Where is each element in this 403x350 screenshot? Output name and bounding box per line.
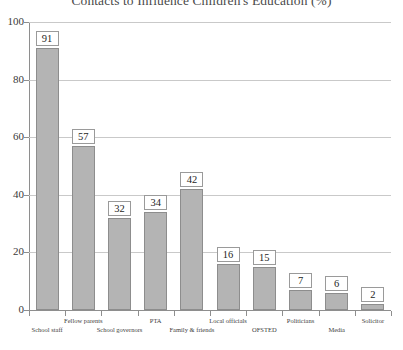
bar-ofsted[interactable] (253, 267, 276, 310)
x-tick-7 (282, 311, 283, 316)
x-tick-10 (391, 311, 392, 316)
y-axis-label-20: 20 (0, 246, 24, 257)
x-tick-8 (319, 311, 320, 316)
bar-school-staff[interactable] (36, 48, 59, 310)
x-axis-label-school-staff: School staff (32, 326, 63, 334)
y-axis-label-100: 100 (0, 16, 24, 27)
x-axis-label-fellow-parents: Fellow parents (64, 317, 102, 325)
value-label-local-officials: 16 (217, 247, 240, 262)
value-label-media: 6 (325, 276, 348, 291)
value-label-school-staff: 91 (36, 31, 59, 46)
x-tick-2 (101, 311, 102, 316)
bar-school-governors[interactable] (108, 218, 131, 310)
value-label-politicians: 7 (289, 273, 312, 288)
y-axis-label-60: 60 (0, 131, 24, 142)
x-tick-5 (210, 311, 211, 316)
x-axis-label-local-officials: Local officials (209, 317, 247, 325)
x-tick-1 (65, 311, 66, 316)
x-axis-label-pta: PTA (150, 317, 162, 325)
x-tick-0 (29, 311, 30, 316)
x-axis-label-ofsted: OFSTED (252, 326, 277, 334)
plot-area: 91 57 32 34 42 16 15 7 6 2 (29, 22, 391, 310)
bar-fellow-parents[interactable] (72, 146, 95, 310)
bar-local-officials[interactable] (217, 264, 240, 310)
bar-family-friends[interactable] (180, 189, 203, 310)
x-axis-label-family-friends: Family & friends (170, 326, 215, 334)
y-axis-label-80: 80 (0, 74, 24, 85)
value-label-school-governors: 32 (108, 201, 131, 216)
x-tick-3 (138, 311, 139, 316)
figure-caption (1, 341, 91, 347)
y-axis-label-0: 0 (0, 304, 24, 315)
bar-solicitor[interactable] (361, 304, 384, 310)
y-axis-label-40: 40 (0, 189, 24, 200)
value-label-fellow-parents: 57 (72, 129, 95, 144)
x-axis-label-media: Media (328, 326, 345, 334)
value-label-solicitor: 2 (361, 287, 384, 302)
bar-politicians[interactable] (289, 290, 312, 310)
x-tick-6 (246, 311, 247, 316)
x-axis-label-solicitor: Solicitor (362, 317, 384, 325)
value-label-family-friends: 42 (180, 172, 203, 187)
gridline-100 (29, 22, 391, 23)
chart-title: Contacts to Influence Children's Educati… (0, 0, 403, 8)
gridline-80 (29, 80, 391, 81)
value-label-pta: 34 (144, 195, 167, 210)
x-axis-label-school-governors: School governors (97, 326, 143, 334)
x-tick-4 (174, 311, 175, 316)
value-label-ofsted: 15 (253, 250, 276, 265)
bar-pta[interactable] (144, 212, 167, 310)
bar-media[interactable] (325, 293, 348, 310)
x-axis-label-politicians: Politicians (287, 317, 314, 325)
x-tick-9 (355, 311, 356, 316)
